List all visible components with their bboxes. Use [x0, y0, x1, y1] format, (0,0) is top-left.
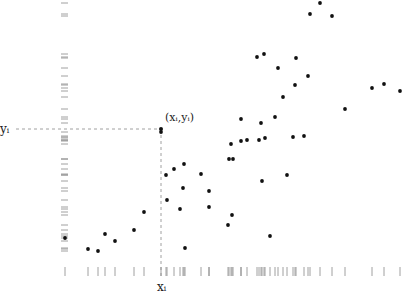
data-point [293, 83, 297, 87]
data-point [382, 82, 386, 86]
data-point [229, 142, 233, 146]
data-point [260, 179, 264, 183]
data-point [103, 232, 107, 236]
data-point [281, 95, 285, 99]
data-point [306, 74, 310, 78]
data-point [96, 249, 100, 253]
data-point [159, 130, 163, 134]
data-point [268, 234, 272, 238]
highlight-point-label: (xᵢ,yᵢ) [165, 111, 194, 124]
x-rug-plot [65, 267, 400, 276]
data-point [294, 56, 298, 60]
data-point [308, 12, 312, 16]
data-point [207, 189, 211, 193]
data-point [285, 173, 289, 177]
data-point [302, 134, 306, 138]
data-point [183, 246, 187, 250]
y-rug-plot [61, 3, 68, 251]
data-point [255, 55, 259, 59]
data-point [239, 117, 243, 121]
data-point [226, 223, 230, 227]
data-points [63, 1, 402, 253]
plot-canvas: (xᵢ,yᵢ) xᵢ yᵢ [0, 0, 410, 301]
data-point [165, 198, 169, 202]
data-point [86, 247, 90, 251]
data-point [113, 239, 117, 243]
data-point [207, 205, 211, 209]
data-point [263, 136, 267, 140]
data-point [398, 89, 402, 93]
data-point [239, 139, 243, 143]
data-point [318, 1, 322, 5]
data-point [181, 186, 185, 190]
data-point [227, 157, 231, 161]
data-point [63, 236, 67, 240]
data-point [262, 52, 266, 56]
data-point [178, 207, 182, 211]
scatter-plot: (xᵢ,yᵢ) xᵢ yᵢ [0, 0, 410, 301]
y-axis-label: yᵢ [0, 122, 10, 136]
data-point [132, 228, 136, 232]
data-point [164, 173, 168, 177]
data-point [231, 157, 235, 161]
data-point [343, 107, 347, 111]
highlight-guide-lines [16, 127, 163, 278]
data-point [276, 66, 280, 70]
data-point [370, 86, 374, 90]
data-point [245, 138, 249, 142]
data-point [259, 121, 263, 125]
data-point [230, 213, 234, 217]
data-point [182, 162, 186, 166]
data-point [291, 135, 295, 139]
data-point [199, 172, 203, 176]
x-axis-label: xᵢ [157, 280, 167, 294]
data-point [142, 210, 146, 214]
data-point [172, 167, 176, 171]
data-point [273, 115, 277, 119]
data-point [257, 138, 261, 142]
data-point [330, 14, 334, 18]
